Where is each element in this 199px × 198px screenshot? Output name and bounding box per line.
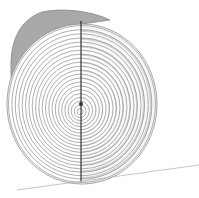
log-diagram — [0, 0, 199, 198]
pith-center — [79, 102, 83, 106]
log-cross-section-figure — [0, 0, 199, 198]
